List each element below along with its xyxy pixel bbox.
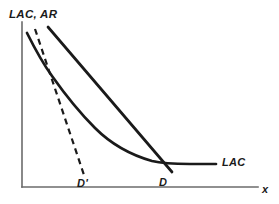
demand-line-d-prime bbox=[35, 29, 85, 178]
y-axis-label: LAC, AR bbox=[9, 9, 57, 21]
x-axis-label: x bbox=[262, 184, 268, 195]
demand-curve-alt-label: D' bbox=[77, 178, 88, 189]
lac-curve-label: LAC bbox=[222, 157, 246, 168]
economics-figure: LAC, AR x LAC D D' bbox=[0, 0, 279, 204]
demand-curve-label: D bbox=[159, 177, 167, 188]
figure-canvas bbox=[0, 0, 279, 204]
demand-line-d bbox=[48, 27, 172, 172]
lac-curve bbox=[27, 33, 216, 164]
